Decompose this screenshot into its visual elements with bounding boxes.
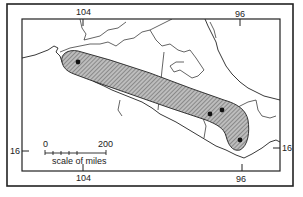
lat-label-left-16: 16 — [10, 147, 20, 156]
locality-point — [76, 60, 81, 65]
lon-label-bottom-104: 104 — [76, 174, 91, 183]
lon-label-bottom-96: 96 — [236, 175, 246, 184]
scale-end-label: 200 — [98, 140, 113, 149]
locality-point — [238, 138, 243, 143]
lon-label-top-96: 96 — [235, 10, 245, 19]
scale-caption: scale of miles — [52, 157, 107, 166]
scale-start-label: 0 — [43, 140, 48, 149]
locality-point — [208, 112, 213, 117]
distribution-map — [0, 0, 303, 197]
locality-point — [220, 108, 225, 113]
lat-label-right-16: 16 — [282, 144, 292, 153]
lon-label-top-104: 104 — [76, 8, 91, 17]
